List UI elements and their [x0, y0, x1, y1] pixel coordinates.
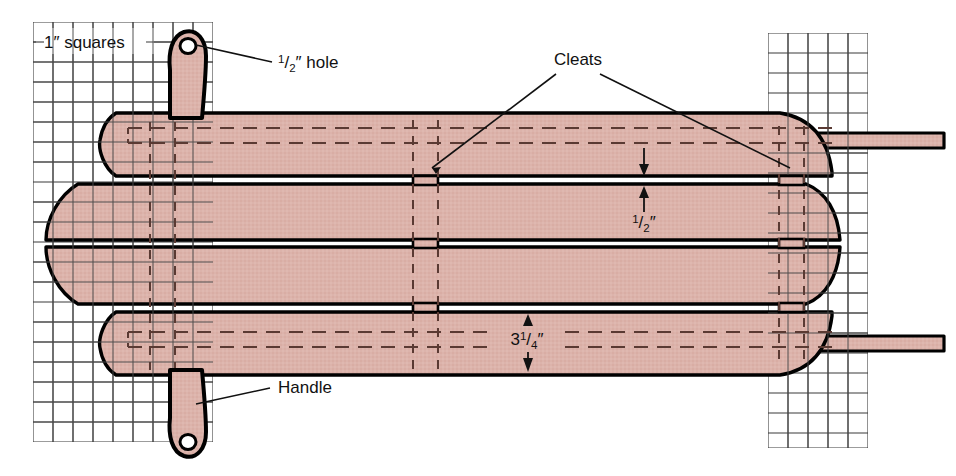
hole-suffix: ″ hole	[296, 53, 339, 72]
handle-bottom	[170, 370, 206, 457]
slat-4	[100, 312, 832, 375]
cleat-bridge-left-2	[413, 239, 438, 248]
handle-label: Handle	[278, 378, 332, 397]
hole-label: 1/2″ hole	[278, 53, 338, 74]
diagram-canvas: 1/2″ 31/4″ 1″ squares 1/2″ hole Cleats H…	[0, 0, 956, 476]
dimension-slat-width-label: 31/4″	[510, 330, 543, 351]
slat-3	[46, 247, 840, 304]
handle-top	[170, 31, 206, 118]
cleat-bridge-right-2	[779, 239, 804, 248]
slat-width-suffix: ″	[537, 330, 543, 349]
gap-suffix: ″	[650, 213, 656, 232]
slat-2	[46, 184, 840, 240]
sled-plan-drawing: 1/2″ 31/4″ 1″ squares 1/2″ hole Cleats H…	[0, 0, 956, 476]
grid-note-label: 1″ squares	[44, 33, 125, 52]
handle-hole-bottom	[180, 435, 196, 450]
cleats-label: Cleats	[554, 50, 602, 69]
cleat-bridge-right-1	[779, 176, 804, 185]
cleat-bridge-right-3	[779, 303, 804, 312]
slat-width-whole: 3	[510, 330, 519, 349]
cleat-bridge-left-3	[413, 303, 438, 312]
cleat-bridge-left-1	[413, 176, 438, 185]
handle-hole-top	[180, 39, 196, 54]
